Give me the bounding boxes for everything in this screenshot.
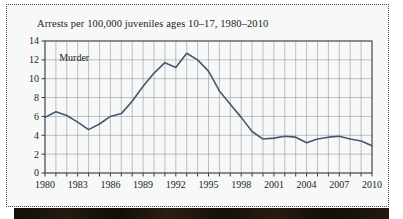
svg-text:8: 8 <box>34 92 39 103</box>
series-label-murder: Murder <box>59 52 90 63</box>
svg-text:4: 4 <box>34 130 39 141</box>
page-bottom-strip <box>14 208 389 219</box>
svg-text:1980: 1980 <box>35 179 55 190</box>
svg-text:6: 6 <box>34 111 39 122</box>
line-chart-svg: 02468101214 1980198319861989199219951998… <box>7 5 390 208</box>
y-axis-ticks <box>42 41 46 173</box>
svg-text:1983: 1983 <box>68 179 88 190</box>
svg-text:12: 12 <box>29 54 39 65</box>
svg-text:1989: 1989 <box>133 179 153 190</box>
svg-text:2001: 2001 <box>264 179 284 190</box>
svg-text:2: 2 <box>34 149 39 160</box>
svg-text:0: 0 <box>34 167 39 178</box>
svg-text:2007: 2007 <box>329 179 349 190</box>
x-axis-tick-labels: 1980198319861989199219951998200120042007… <box>35 179 382 190</box>
svg-text:1998: 1998 <box>231 179 251 190</box>
figure-frame: Arrests per 100,000 juveniles ages 10–17… <box>6 4 389 207</box>
svg-text:2010: 2010 <box>362 179 382 190</box>
svg-text:10: 10 <box>29 73 39 84</box>
svg-text:14: 14 <box>29 35 39 46</box>
svg-text:1995: 1995 <box>199 179 219 190</box>
y-axis-tick-labels: 02468101214 <box>29 35 39 178</box>
svg-text:1986: 1986 <box>100 179 120 190</box>
svg-text:2004: 2004 <box>297 179 317 190</box>
svg-text:1992: 1992 <box>166 179 186 190</box>
gridlines <box>45 41 372 173</box>
plot-area: 02468101214 1980198319861989199219951998… <box>7 5 390 208</box>
x-axis-ticks <box>45 173 372 177</box>
